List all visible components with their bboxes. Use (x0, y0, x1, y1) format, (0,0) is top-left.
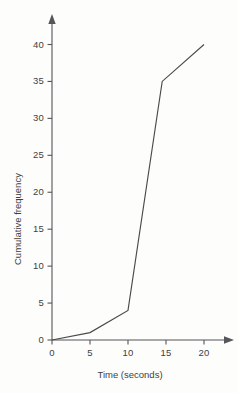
cumulative-frequency-line (52, 45, 204, 341)
x-axis-title: Time (seconds) (0, 370, 238, 380)
y-axis-tick-label: 40 (14, 40, 44, 50)
x-axis-tick-label: 10 (113, 348, 143, 358)
y-axis-tick-label: 5 (14, 298, 44, 308)
y-axis-title: Cumulative frequency (13, 173, 23, 265)
y-axis-tick-label: 30 (14, 113, 44, 123)
y-axis-arrow-icon (48, 14, 55, 24)
y-axis-tick-label: 25 (14, 150, 44, 160)
y-axis-tick-label: 0 (14, 335, 44, 345)
cumulative-frequency-chart: 0510152025303540 05101520 Cumulative fre… (0, 0, 238, 393)
y-axis-ticks (48, 45, 53, 341)
x-axis-arrow-icon (224, 336, 234, 343)
x-axis-tick-label: 0 (37, 348, 67, 358)
y-axis-tick-label: 35 (14, 76, 44, 86)
x-axis-ticks (52, 340, 204, 345)
x-axis-tick-label: 5 (75, 348, 105, 358)
x-axis-tick-label: 20 (189, 348, 219, 358)
x-axis-tick-label: 15 (151, 348, 181, 358)
